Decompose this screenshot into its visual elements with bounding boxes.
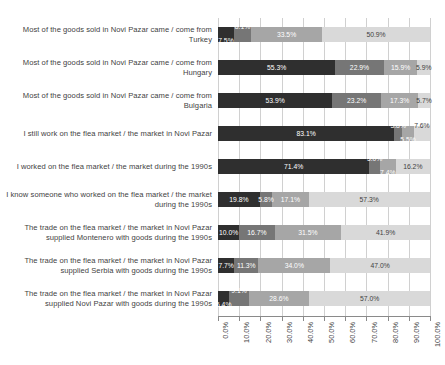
bar-segment: 8.1% [234,27,251,42]
segment-value-label: 5.9% [416,64,432,71]
bar-segment: 17.1% [272,192,308,207]
segment-value-label: 28.6% [269,295,288,302]
segment-value-label: 71.4% [284,163,303,170]
stacked-bar: 5.4%9.1%28.6%57.0% [218,291,430,306]
axis-tick [430,316,431,321]
chart-row: I know someone who worked on the flea ma… [0,183,445,216]
segment-value-label: 23.2% [347,97,366,104]
segment-value-label: 41.9% [376,229,395,236]
segment-value-label: 10.0% [219,229,238,236]
bar-segment: 5.5% [402,126,414,141]
x-tick-label: 60.0% [348,322,357,343]
bar-segment: 47.0% [330,258,430,273]
category-label: Most of the goods sold in Novi Pazar cam… [0,58,218,77]
bar-segment: 7.5% [218,27,234,42]
segment-value-label: 33.5% [277,31,296,38]
bar-segment: 34.0% [258,258,330,273]
x-tick-label: 30.0% [285,322,294,343]
bar-segment: 7.4% [380,159,396,174]
bar-segment: 28.6% [249,291,310,306]
bar-segment: 83.1% [218,126,394,141]
bar-segment: 16.7% [239,225,274,240]
bar-segment: 55.3% [218,60,335,75]
segment-value-label: 17.1% [281,196,300,203]
segment-value-label: 22.9% [350,64,369,71]
axis-tick [409,316,410,321]
segment-value-label: 53.9% [265,97,284,104]
category-label: I still work on the flea market / the ma… [0,129,218,139]
chart-row: The trade on the flea market / the marke… [0,282,445,315]
bar-segment: 9.1% [229,291,248,306]
segment-value-label: 34.0% [285,262,304,269]
chart-row: Most of the goods sold in Novi Pazar cam… [0,51,445,84]
segment-value-label: 11.3% [237,262,256,269]
bar-segment: 5.0% [369,159,380,174]
x-tick-label: 40.0% [306,322,315,343]
segment-value-label: 3.8% [390,121,406,128]
axis-tick [239,316,240,321]
bar-area: 10.0%16.7%31.5%41.9% [218,216,430,249]
x-tick-label: 90.0% [412,322,421,343]
bar-segment: 5.9% [417,60,430,75]
bar-segment: 16.2% [396,159,430,174]
chart-row: I still work on the flea market / the ma… [0,117,445,150]
axis-tick [345,316,346,321]
segment-value-label: 55.3% [267,64,286,71]
axis-tick [282,316,283,321]
chart-row: I worked on the flea market / the market… [0,150,445,183]
stacked-bar: 71.4%5.0%7.4%16.2% [218,159,430,174]
category-label: The trade on the flea market / the marke… [0,223,218,242]
x-tick-label: 0.0% [221,322,230,339]
category-label: Most of the goods sold in Novi Pazar cam… [0,25,218,44]
category-label: The trade on the flea market / the marke… [0,289,218,308]
bar-segment: 53.9% [218,93,332,108]
bar-segment: 22.9% [335,60,384,75]
bar-segment: 19.8% [218,192,260,207]
segment-value-label: 19.8% [229,196,248,203]
bar-segment: 7.7% [218,258,234,273]
segment-value-label: 16.7% [247,229,266,236]
x-tick-label: 50.0% [327,322,336,343]
stacked-bar: 7.7%11.3%34.0%47.0% [218,258,430,273]
segment-value-label: 7.5% [218,36,234,43]
bar-area: 19.8%5.8%17.1%57.3% [218,183,430,216]
segment-value-label: 47.0% [371,262,390,269]
segment-value-label: 5.7% [416,97,432,104]
bar-area: 53.9%23.2%17.3%5.7% [218,84,430,117]
bar-area: 83.1%3.8%5.5%7.6% [218,117,430,150]
segment-value-label: 8.1% [235,22,251,29]
x-axis-tick-labels: 0.0%10.0%20.0%30.0%40.0%50.0%60.0%70.0%8… [218,322,430,364]
stacked-bar-chart: Most of the goods sold in Novi Pazar cam… [0,0,445,365]
bar-segment: 17.3% [381,93,418,108]
bar-segment: 5.7% [418,93,430,108]
bar-area: 55.3%22.9%15.9%5.9% [218,51,430,84]
segment-value-label: 5.4% [216,300,232,307]
bar-area: 5.4%9.1%28.6%57.0% [218,282,430,315]
bar-segment: 23.2% [332,93,381,108]
stacked-bar: 7.5%8.1%33.5%50.9% [218,27,430,42]
chart-row: The trade on the flea market / the marke… [0,216,445,249]
bar-segment: 41.9% [341,225,430,240]
segment-value-label: 5.8% [258,196,274,203]
stacked-bar: 19.8%5.8%17.1%57.3% [218,192,430,207]
bar-segment: 7.6% [414,126,430,141]
axis-tick [218,316,219,321]
axis-tick [303,316,304,321]
bar-segment: 50.9% [322,27,430,42]
segment-value-label: 83.1% [296,130,315,137]
chart-row: Most of the goods sold in Novi Pazar cam… [0,84,445,117]
category-label: Most of the goods sold in Novi Pazar cam… [0,91,218,110]
category-label: I know someone who worked on the flea ma… [0,190,218,209]
segment-value-label: 50.9% [366,31,385,38]
category-label: The trade on the flea market / the marke… [0,256,218,275]
segment-value-label: 5.5% [400,135,416,142]
stacked-bar: 53.9%23.2%17.3%5.7% [218,93,430,108]
bar-segment: 10.0% [218,225,239,240]
segment-value-label: 7.6% [414,121,430,128]
category-label: I worked on the flea market / the market… [0,162,218,172]
segment-value-label: 7.7% [218,262,234,269]
segment-value-label: 9.1% [231,286,247,293]
x-tick-label: 70.0% [370,322,379,343]
segment-value-label: 17.3% [390,97,409,104]
axis-tick [366,316,367,321]
